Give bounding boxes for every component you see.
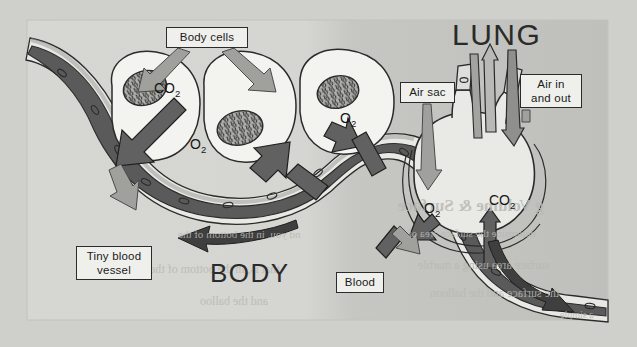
gas-subscript: 2 [351, 118, 356, 129]
gas-label-co2-body-cell: CO2 [154, 80, 180, 99]
diagram-stage: g Volume & Surface nd you, in the bottom… [0, 0, 637, 347]
region-label-body: BODY [210, 258, 290, 289]
gas-formula: O [424, 200, 435, 216]
gas-exchange-illustration [0, 0, 637, 347]
gas-formula: CO [154, 80, 175, 96]
gas-formula: O [190, 136, 201, 152]
gas-formula: CO [489, 192, 510, 208]
gas-subscript: 2 [435, 208, 440, 219]
gas-label-o2-body-cell-left: O2 [190, 136, 206, 155]
pointer-air-in-and-out [522, 110, 530, 122]
region-label-lung: LUNG [452, 18, 541, 52]
callout-body-cells[interactable]: Body cells [166, 27, 248, 48]
callout-air-sac[interactable]: Air sac [400, 82, 455, 103]
gas-subscript: 2 [175, 88, 180, 99]
callout-blood[interactable]: Blood [336, 272, 384, 293]
gas-label-o2-body-cell-right: O2 [340, 110, 356, 129]
callout-air-in-and-out[interactable]: Air in and out [520, 74, 582, 108]
gas-label-o2-air-sac: O2 [424, 200, 440, 219]
gas-label-co2-air-sac: CO2 [489, 192, 515, 211]
callout-tiny-blood-vessel[interactable]: Tiny blood vessel [76, 246, 152, 280]
gas-subscript: 2 [510, 200, 515, 211]
gas-subscript: 2 [201, 144, 206, 155]
gas-formula: O [340, 110, 351, 126]
